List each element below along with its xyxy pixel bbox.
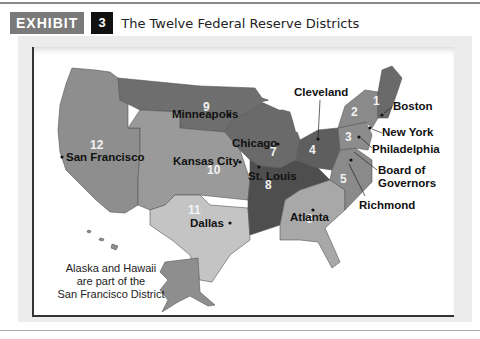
note-line-2: are part of the [46, 275, 176, 288]
district-number-3: 3 [345, 130, 352, 144]
city-label-chicago: Chicago [232, 137, 277, 149]
city-label-st-louis: St. Louis [248, 170, 297, 182]
alaska-hawaii-note: Alaska and Hawaii are part of the San Fr… [46, 262, 176, 301]
city-label-san-francisco: San Francisco [66, 151, 145, 163]
city-label-atlanta: Atlanta [290, 211, 329, 223]
board-label-line1: Board of [378, 164, 425, 176]
district-number-11: 11 [188, 203, 201, 217]
district-number-2: 2 [351, 105, 358, 119]
city-label-new-york: New York [382, 126, 433, 138]
note-line-1: Alaska and Hawaii [46, 262, 176, 275]
district-number-12: 12 [90, 138, 103, 152]
note-line-3: San Francisco District [46, 288, 176, 301]
city-label-cleveland: Cleveland [294, 86, 348, 98]
district-number-1: 1 [373, 94, 380, 108]
city-label-dallas: Dallas [190, 217, 224, 229]
city-label-minneapolis: Minneapolis [172, 108, 238, 120]
city-label-richmond: Richmond [359, 199, 415, 211]
city-label-kansas-city: Kansas City [173, 155, 239, 167]
city-label-boston: Boston [393, 100, 433, 112]
bottom-rule [0, 330, 480, 331]
board-label-line2: Governors [378, 177, 436, 189]
city-label-philadelphia: Philadelphia [372, 143, 440, 155]
hawaii-region [87, 230, 118, 250]
district-number-5: 5 [340, 172, 347, 186]
district-number-4: 4 [309, 143, 316, 157]
